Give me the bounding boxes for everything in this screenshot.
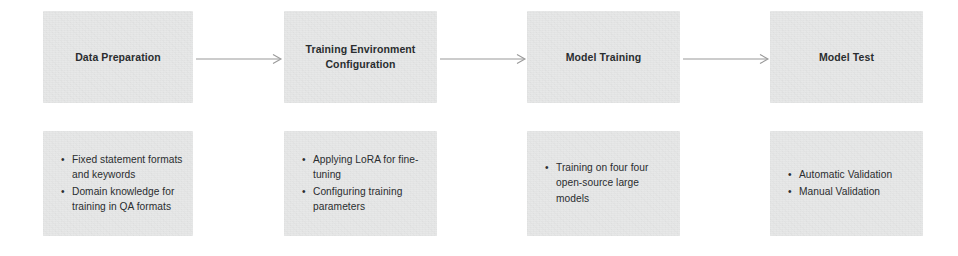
arrow-right-icon-3	[683, 50, 773, 68]
bullet-icon: •	[61, 184, 65, 200]
arrow-right-icon-1	[196, 50, 286, 68]
bullet-list: • Training on four four open-source larg…	[527, 160, 680, 208]
bullet-icon: •	[302, 152, 306, 168]
stage-title: Training Environment Configuration	[296, 42, 425, 72]
list-item-label: Manual Validation	[799, 186, 880, 197]
list-item: • Training on four four open-source larg…	[545, 160, 670, 207]
list-item-label: Fixed statement formats and keywords	[72, 154, 182, 181]
bullet-list: • Applying LoRA for fine-tuning • Config…	[284, 152, 437, 216]
list-item-label: Training on four four open-source large …	[556, 162, 648, 204]
list-item-label: Automatic Validation	[799, 169, 892, 180]
detail-box-model-training[interactable]: • Training on four four open-source larg…	[527, 131, 680, 236]
stage-title: Model Training	[566, 50, 641, 65]
bullet-icon: •	[61, 152, 65, 168]
stage-title: Data Preparation	[75, 50, 161, 65]
bullet-icon: •	[788, 184, 792, 200]
flowchart-canvas: Data Preparation Training Environment Co…	[0, 0, 958, 256]
stage-box-model-test[interactable]: Model Test	[770, 11, 923, 103]
list-item-label: Configuring training parameters	[313, 186, 402, 213]
list-item: • Applying LoRA for fine-tuning	[302, 152, 427, 183]
detail-box-training-environment-configuration[interactable]: • Applying LoRA for fine-tuning • Config…	[284, 131, 437, 236]
stage-box-training-environment-configuration[interactable]: Training Environment Configuration	[284, 11, 437, 103]
stage-title: Model Test	[819, 50, 874, 65]
arrow-right-icon-2	[440, 50, 530, 68]
list-item: • Automatic Validation	[788, 167, 913, 183]
stage-box-data-preparation[interactable]: Data Preparation	[43, 11, 193, 103]
bullet-icon: •	[302, 184, 306, 200]
list-item: • Configuring training parameters	[302, 184, 427, 215]
list-item: • Fixed statement formats and keywords	[61, 152, 183, 183]
detail-box-data-preparation[interactable]: • Fixed statement formats and keywords •…	[43, 131, 193, 236]
list-item: • Domain knowledge for training in QA fo…	[61, 184, 183, 215]
list-item-label: Domain knowledge for training in QA form…	[72, 186, 174, 213]
detail-box-model-test[interactable]: • Automatic Validation • Manual Validati…	[770, 131, 923, 236]
bullet-list: • Fixed statement formats and keywords •…	[43, 152, 193, 216]
list-item: • Manual Validation	[788, 184, 913, 200]
bullet-icon: •	[545, 160, 549, 176]
stage-box-model-training[interactable]: Model Training	[527, 11, 680, 103]
bullet-list: • Automatic Validation • Manual Validati…	[770, 167, 923, 200]
list-item-label: Applying LoRA for fine-tuning	[313, 154, 418, 181]
bullet-icon: •	[788, 167, 792, 183]
